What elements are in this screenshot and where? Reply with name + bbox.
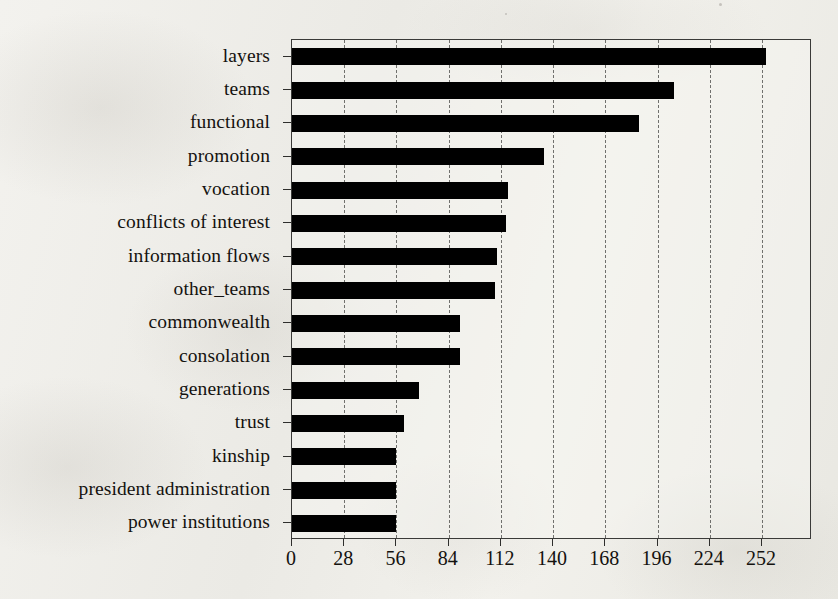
y-axis-tick — [283, 122, 291, 123]
y-axis-label-generations: generations — [179, 379, 270, 398]
y-axis-label-vocation: vocation — [202, 179, 270, 198]
x-axis-tick — [657, 539, 658, 546]
y-axis-tick — [283, 289, 291, 290]
y-axis-tick — [283, 356, 291, 357]
x-gridline — [658, 40, 659, 538]
y-axis-label-trust: trust — [235, 412, 270, 431]
y-axis-label-president-administration: president administration — [79, 479, 270, 498]
x-axis-tick-label: 140 — [537, 547, 567, 570]
x-axis-tick — [709, 539, 710, 546]
bar-president-administration — [292, 482, 396, 499]
x-axis-tick — [604, 539, 605, 546]
y-axis-label-information-flows: information flows — [128, 246, 270, 265]
y-axis-tick — [283, 222, 291, 223]
y-axis-label-kinship: kinship — [212, 446, 270, 465]
y-axis-tick — [283, 189, 291, 190]
bar-consolation — [292, 348, 460, 365]
x-axis-tick-label: 84 — [438, 547, 458, 570]
y-axis-tick — [283, 522, 291, 523]
y-axis-tick — [283, 256, 291, 257]
bar-power-institutions — [292, 515, 396, 532]
x-axis-tick — [552, 539, 553, 546]
x-axis-tick-label: 0 — [286, 547, 296, 570]
x-axis-tick-label: 56 — [385, 547, 405, 570]
y-axis-tick — [283, 422, 291, 423]
x-axis-tick-label: 168 — [589, 547, 619, 570]
y-axis-label-power-institutions: power institutions — [128, 512, 270, 531]
y-axis-label-promotion: promotion — [188, 146, 270, 165]
bar-other-teams — [292, 282, 495, 299]
y-axis-tick — [283, 322, 291, 323]
bar-promotion — [292, 148, 544, 165]
bar-generations — [292, 382, 419, 399]
bar-teams — [292, 82, 674, 99]
x-gridline — [710, 40, 711, 538]
y-axis-label-consolation: consolation — [179, 346, 270, 365]
scan-speck — [719, 3, 722, 6]
scan-speck — [505, 13, 507, 15]
bar-conflicts-of-interest — [292, 215, 506, 232]
y-axis-category-labels: layersteamsfunctionalpromotionvocationco… — [0, 39, 284, 539]
x-gridline — [762, 40, 763, 538]
y-axis-label-commonwealth: commonwealth — [149, 312, 270, 331]
x-axis-tick — [761, 539, 762, 546]
bar-vocation — [292, 182, 508, 199]
x-axis-tick — [448, 539, 449, 546]
horizontal-bar-chart: layersteamsfunctionalpromotionvocationco… — [0, 0, 838, 599]
x-axis-tick-label: 28 — [333, 547, 353, 570]
bar-information-flows — [292, 248, 497, 265]
bar-trust — [292, 415, 404, 432]
y-axis-tick — [283, 89, 291, 90]
x-axis-tick-label: 196 — [642, 547, 672, 570]
x-axis-tick-label: 112 — [485, 547, 514, 570]
y-axis-label-conflicts-of-interest: conflicts of interest — [117, 212, 270, 231]
y-axis-label-layers: layers — [223, 46, 270, 65]
x-axis-tick — [343, 539, 344, 546]
x-axis-tick-label: 224 — [694, 547, 724, 570]
bar-layers — [292, 48, 766, 65]
y-axis-tick — [283, 489, 291, 490]
y-axis-label-functional: functional — [190, 112, 270, 131]
y-axis-tick — [283, 156, 291, 157]
y-axis-tick — [283, 456, 291, 457]
x-axis-tick-label: 252 — [746, 547, 776, 570]
plot-area — [291, 39, 811, 539]
x-axis-tick — [500, 539, 501, 546]
bar-commonwealth — [292, 315, 460, 332]
x-axis-tick — [291, 539, 292, 546]
bar-kinship — [292, 448, 396, 465]
y-axis-label-other-teams: other_teams — [174, 279, 270, 298]
bar-functional — [292, 115, 639, 132]
y-axis-label-teams: teams — [224, 79, 270, 98]
y-axis-tick — [283, 389, 291, 390]
x-axis-tick — [395, 539, 396, 546]
x-axis: 0285684112140168196224252 — [291, 539, 811, 585]
y-axis-tick — [283, 56, 291, 57]
